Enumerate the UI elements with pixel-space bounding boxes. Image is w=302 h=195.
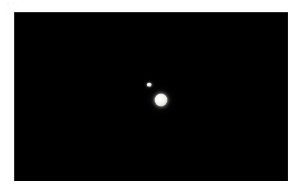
image-page <box>0 0 302 195</box>
celestial-body-primary[interactable] <box>155 94 168 107</box>
scan-speckle-artifact <box>6 2 19 11</box>
celestial-body-companion[interactable] <box>147 82 152 87</box>
celestial-body-primary-label <box>154 93 155 94</box>
sensor-noise-overlay <box>14 12 288 181</box>
sky-image-panel[interactable] <box>14 12 288 181</box>
celestial-body-companion-label <box>146 81 147 82</box>
